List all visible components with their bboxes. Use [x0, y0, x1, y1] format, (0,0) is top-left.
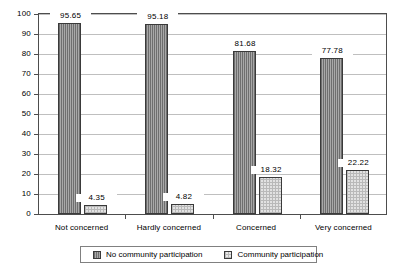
bar-chart: 0102030405060708090100 95.654.3595.184.8…: [0, 0, 397, 271]
x-axis-tick-mark: [300, 215, 301, 219]
legend-item-community-participation[interactable]: Community participation: [224, 251, 323, 259]
legend-item-no-community-participation[interactable]: No community participation: [93, 251, 202, 259]
y-axis-tick-label: 20: [22, 170, 31, 178]
bar-0-1: [145, 24, 168, 214]
bar-1-0: [84, 205, 107, 214]
legend-swatch-icon-series-1: [224, 251, 232, 259]
bar-0-0: [58, 23, 81, 214]
bar-value-label: 18.32: [251, 166, 292, 174]
bar-value-label: 4.82: [163, 193, 204, 201]
bar-value-label: 95.65: [50, 12, 91, 20]
y-axis-tick-label: 10: [22, 190, 31, 198]
bar-value-label: 77.78: [312, 47, 353, 55]
legend-label-series-1: Community participation: [237, 251, 323, 259]
y-axis-tick-label: 40: [22, 130, 31, 138]
bar-1-1: [171, 204, 194, 214]
bar-0-3: [320, 58, 343, 214]
y-axis-tick-label: 80: [22, 50, 31, 58]
bar-value-label: 4.35: [76, 194, 117, 202]
bar-1-2: [259, 177, 282, 214]
x-axis-category-label: Hardly concerned: [125, 223, 212, 232]
y-axis-tick-label: 30: [22, 150, 31, 158]
gridline: [39, 34, 386, 35]
bar-value-label: 81.68: [225, 40, 266, 48]
chart-legend: No community participation Community par…: [80, 246, 317, 263]
legend-swatch-icon-series-0: [93, 251, 101, 259]
plot-area: 95.654.3595.184.8281.6818.3277.7822.22: [38, 13, 387, 215]
bar-value-label: 95.18: [137, 13, 178, 21]
x-axis-category-label: Very concerned: [300, 223, 387, 232]
y-axis-tick-label: 100: [17, 10, 31, 18]
bar-value-label: 22.22: [338, 159, 379, 167]
y-axis: 0102030405060708090100: [0, 0, 38, 216]
x-axis-category-label: Concerned: [213, 223, 300, 232]
y-axis-tick-label: 70: [22, 70, 31, 78]
x-axis-category-label: Not concerned: [38, 223, 125, 232]
bar-1-3: [346, 170, 369, 214]
bar-0-2: [233, 51, 256, 214]
y-axis-tick-label: 60: [22, 90, 31, 98]
x-axis-tick-mark: [125, 215, 126, 219]
y-axis-tick-label: 50: [22, 110, 31, 118]
y-axis-tick-label: 90: [22, 30, 31, 38]
y-axis-tick-label: 0: [26, 210, 31, 218]
x-axis-tick-mark: [213, 215, 214, 219]
legend-label-series-0: No community participation: [106, 251, 202, 259]
